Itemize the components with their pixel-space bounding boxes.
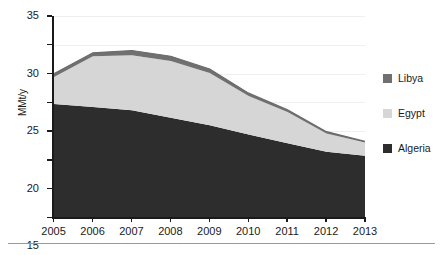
x-tick-label-2012: 2012 bbox=[314, 225, 338, 237]
bottom-divider bbox=[8, 243, 435, 244]
x-tick-2005 bbox=[53, 217, 54, 222]
y-tick-0: 0 bbox=[47, 217, 52, 218]
x-tick-2007 bbox=[131, 217, 132, 222]
y-tick-35: 35 bbox=[47, 15, 52, 16]
y-tick-label-30: 30 bbox=[27, 67, 39, 78]
y-tick-15: 15 bbox=[47, 130, 52, 131]
legend-item-libya[interactable]: Libya bbox=[383, 72, 443, 84]
legend-label-egypt: Egypt bbox=[398, 107, 425, 119]
x-tick-2009 bbox=[209, 217, 210, 222]
x-tick-label-2008: 2008 bbox=[158, 225, 182, 237]
x-tick-label-2005: 2005 bbox=[41, 225, 65, 237]
x-tick-2010 bbox=[248, 217, 249, 222]
y-tick-30: 30 bbox=[47, 44, 52, 45]
x-tick-label-2011: 2011 bbox=[275, 225, 299, 237]
x-tick-2011 bbox=[286, 217, 287, 222]
legend-item-egypt[interactable]: Egypt bbox=[383, 107, 443, 119]
y-tick-5: 5 bbox=[47, 188, 52, 189]
x-tick-label-2006: 2006 bbox=[80, 225, 104, 237]
y-tick-label-25: 25 bbox=[27, 125, 39, 136]
y-tick-label-20: 20 bbox=[27, 182, 39, 193]
stacked-area-chart-figure: MMt/y 05101520253035 2005200620072008200… bbox=[0, 0, 443, 255]
x-tick-2008 bbox=[170, 217, 171, 222]
legend-swatch-libya bbox=[383, 74, 392, 83]
legend-item-algeria[interactable]: Algeria bbox=[383, 142, 443, 154]
legend-label-libya: Libya bbox=[398, 72, 423, 84]
legend-swatch-algeria bbox=[383, 144, 392, 153]
area-series-layer bbox=[54, 16, 365, 217]
x-tick-label-2007: 2007 bbox=[119, 225, 143, 237]
y-tick-label-35: 35 bbox=[27, 10, 39, 21]
x-tick-2006 bbox=[92, 217, 93, 222]
legend-swatch-egypt bbox=[383, 109, 392, 118]
plot-area: 05101520253035 2005200620072008200920102… bbox=[52, 16, 365, 219]
y-tick-25: 25 bbox=[47, 73, 52, 74]
x-tick-label-2010: 2010 bbox=[236, 225, 260, 237]
y-tick-10: 10 bbox=[47, 159, 52, 160]
x-tick-label-2009: 2009 bbox=[197, 225, 221, 237]
chart-legend: LibyaEgyptAlgeria bbox=[383, 72, 443, 177]
x-tick-2012 bbox=[325, 217, 326, 222]
legend-label-algeria: Algeria bbox=[398, 142, 431, 154]
y-tick-label-15: 15 bbox=[27, 240, 39, 251]
x-tick-label-2013: 2013 bbox=[353, 225, 377, 237]
x-tick-2013 bbox=[364, 217, 365, 222]
y-tick-20: 20 bbox=[47, 102, 52, 103]
